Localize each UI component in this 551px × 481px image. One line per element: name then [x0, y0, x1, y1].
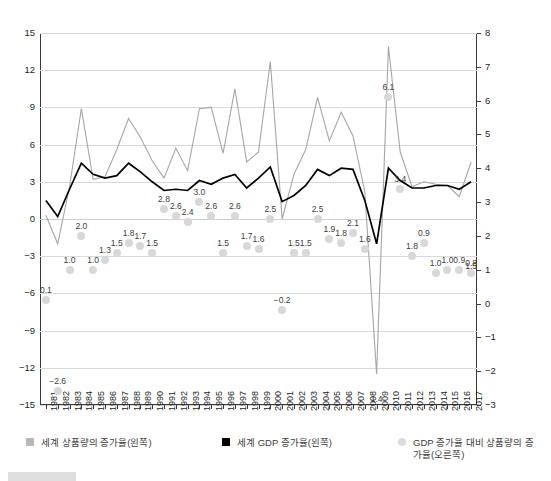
circle-grey-icon — [398, 438, 406, 446]
scatter-point-label: 1.0 — [87, 256, 99, 265]
scatter-point — [160, 205, 168, 213]
scatter-point — [207, 212, 215, 220]
scatter-point-label: 1.8 — [335, 229, 347, 238]
legend-item-commodity: 세계 상품량의 증가율(왼쪽) — [26, 437, 152, 449]
scatter-point — [255, 245, 263, 253]
scatter-point — [42, 296, 50, 304]
scatter-point-label: 3.4 — [394, 175, 406, 184]
scatter-point-label: 1.4 — [371, 395, 383, 404]
legend-label-gdp: 세계 GDP 증가율(왼쪽) — [237, 437, 332, 449]
right-tick-label: 1 — [485, 265, 490, 274]
right-tick-mark — [477, 134, 481, 135]
left-tick-label: −3 — [24, 251, 35, 260]
right-tick-label: 4 — [485, 163, 490, 172]
left-tick-label: −15 — [19, 400, 35, 409]
right-tick-label: 0 — [485, 299, 490, 308]
left-tick-label: 15 — [24, 28, 35, 37]
legend-item-gdp: 세계 GDP 증가율(왼쪽) — [222, 437, 332, 449]
scatter-point-label: 1.7 — [134, 232, 146, 241]
scatter-point — [290, 249, 298, 257]
scatter-point — [148, 249, 156, 257]
scatter-point-label: 1.6 — [253, 235, 265, 244]
commodity-growth-line — [46, 47, 471, 374]
right-tick-label: 2 — [485, 231, 490, 240]
right-tick-label: 3 — [485, 197, 490, 206]
scatter-point — [231, 212, 239, 220]
scatter-point — [443, 266, 451, 274]
gdp-growth-line — [46, 163, 471, 244]
legend-item-ratio: GDP 증가율 대비 상품량의 증가율(오른쪽) — [398, 437, 536, 461]
right-tick-label: 6 — [485, 96, 490, 105]
right-tick-label: 5 — [485, 129, 490, 138]
scatter-point-label: 2.0 — [75, 222, 87, 231]
scatter-point-label: 1.0 — [430, 259, 442, 268]
left-tick-label: 3 — [30, 177, 35, 186]
scatter-point — [432, 269, 440, 277]
scatter-point-label: 1.0 — [442, 256, 454, 265]
scatter-point-label: 1.3 — [99, 246, 111, 255]
scatter-point — [455, 266, 463, 274]
square-black-icon — [222, 438, 230, 446]
right-tick-label: 8 — [485, 28, 490, 37]
scatter-point — [219, 249, 227, 257]
scatter-point — [195, 198, 203, 206]
right-tick-mark — [477, 304, 481, 305]
scatter-point — [66, 266, 74, 274]
left-tick-label: 9 — [30, 102, 35, 111]
legend-label-ratio: GDP 증가율 대비 상품량의 증가율(오른쪽) — [413, 437, 536, 461]
scatter-point-label: 1.6 — [359, 235, 371, 244]
right-tick-mark — [477, 270, 481, 271]
right-tick-mark — [477, 101, 481, 102]
scatter-point-label: 1.8 — [123, 229, 135, 238]
square-grey-icon — [26, 438, 34, 446]
scatter-point-label: −2.6 — [49, 377, 66, 386]
scatter-point-label: −0.2 — [274, 296, 291, 305]
scatter-point — [361, 245, 369, 253]
scatter-point — [136, 242, 144, 250]
scatter-point — [125, 239, 133, 247]
scatter-point-label: 2.5 — [312, 205, 324, 214]
scatter-point-label: 2.5 — [264, 205, 276, 214]
series-lines — [40, 33, 477, 405]
x-tick-mark — [46, 405, 47, 409]
scatter-point-label: 0.1 — [40, 286, 52, 295]
scatter-point-label: 3.0 — [194, 188, 206, 197]
scatter-point — [172, 212, 180, 220]
scatter-point-label: 2.1 — [347, 219, 359, 228]
right-tick-mark — [477, 67, 481, 68]
scatter-point-label: 1.5 — [217, 239, 229, 248]
left-tick-label: 6 — [30, 140, 35, 149]
scatter-point-label: 0.9 — [418, 229, 430, 238]
left-tick-label: 0 — [30, 214, 35, 223]
scatter-point-label: 1.0 — [64, 256, 76, 265]
left-tick-label: −12 — [19, 363, 35, 372]
scatter-point — [349, 229, 357, 237]
scatter-point — [113, 249, 121, 257]
scatter-point — [314, 215, 322, 223]
right-tick-mark — [477, 371, 481, 372]
scatter-point — [266, 215, 274, 223]
scatter-point-label: 1.7 — [241, 232, 253, 241]
scatter-point-label: 1.9 — [323, 225, 335, 234]
scatter-point-label: 1.5 — [465, 262, 477, 271]
scatter-point — [396, 185, 404, 193]
right-tick-mark — [477, 33, 481, 34]
right-tick-mark — [477, 168, 481, 169]
right-tick-label: −3 — [485, 400, 496, 409]
scatter-point — [420, 239, 428, 247]
scatter-point — [89, 266, 97, 274]
scatter-point — [325, 235, 333, 243]
scatter-point-label: 1.8 — [406, 242, 418, 251]
scatter-point — [243, 242, 251, 250]
right-tick-label: −2 — [485, 366, 496, 375]
scatter-point-label: 1.5 — [146, 239, 158, 248]
scatter-point-label: 2.6 — [170, 202, 182, 211]
legend-label-commodity: 세계 상품량의 증가율(왼쪽) — [41, 437, 152, 449]
scatter-point-label: 2.4 — [182, 208, 194, 217]
scatter-point-label: 1.5 — [300, 239, 312, 248]
left-tick-label: −6 — [24, 288, 35, 297]
scatter-point-label: 2.6 — [229, 202, 241, 211]
footer-bar — [8, 472, 76, 481]
left-tick-label: 12 — [24, 65, 35, 74]
scatter-point-label: 1.5 — [111, 239, 123, 248]
